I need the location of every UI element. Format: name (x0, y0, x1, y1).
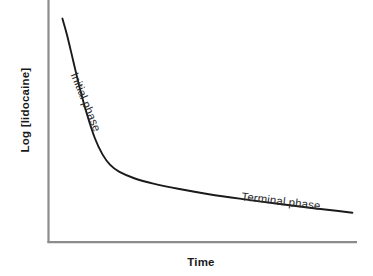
decay-curve-line (62, 19, 352, 213)
chart-container: Log [lidocaine] Time Initial phase Termi… (0, 0, 373, 276)
x-axis-title: Time (187, 256, 214, 268)
plot-area (0, 0, 373, 276)
y-axis-title: Log [lidocaine] (19, 68, 31, 153)
